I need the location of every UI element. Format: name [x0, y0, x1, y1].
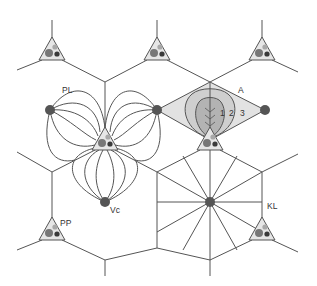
central-vein	[260, 105, 270, 115]
label-zone-2: 2	[229, 108, 234, 118]
central-vein	[45, 105, 55, 115]
liver-lobule-diagram: PL A 1 2 3 Vc PP KL	[0, 0, 317, 286]
label-a: A	[238, 85, 244, 95]
label-kl: KL	[267, 201, 278, 211]
central-vein	[152, 105, 162, 115]
label-pp: PP	[60, 218, 72, 228]
central-vein	[205, 197, 215, 207]
label-vc: Vc	[110, 205, 121, 215]
label-zone-3: 3	[240, 108, 245, 118]
portal-triad	[249, 217, 275, 240]
portal-triad	[249, 37, 275, 60]
portal-triad	[144, 37, 170, 60]
central-vein	[100, 197, 110, 207]
label-pl: PL	[62, 85, 73, 95]
portal-triad	[39, 37, 65, 60]
label-zone-1: 1	[220, 108, 225, 118]
